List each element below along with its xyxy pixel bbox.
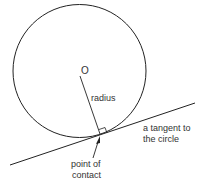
tangent-label-line1: a tangent to [143, 123, 191, 134]
contact-label-line2: contact [72, 170, 101, 181]
contact-pointer-line [93, 142, 98, 158]
radius-label: radius [91, 93, 116, 104]
contact-arrowhead-icon [96, 136, 100, 144]
center-label: O [81, 65, 89, 76]
contact-label-line1: point of [71, 159, 101, 170]
radius-line [80, 76, 100, 134]
tangent-label-line2: the circle [143, 134, 179, 145]
circle [13, 5, 146, 138]
